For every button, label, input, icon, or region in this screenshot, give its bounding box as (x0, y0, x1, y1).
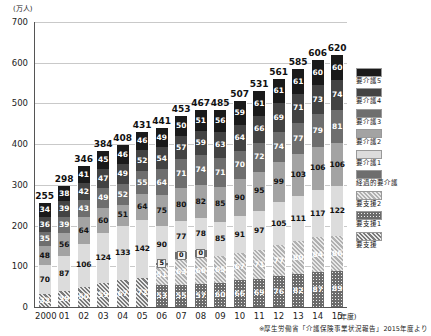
bar-segment: 39 (57, 217, 71, 233)
bar-total-label: 255 (35, 191, 54, 201)
bar-segment: 71 (252, 250, 266, 279)
bar-segment: 63 (213, 132, 227, 158)
bar-segment: 56 (57, 233, 71, 256)
legend-item[interactable]: 要支援1 (356, 211, 428, 228)
segment-value-label: 71 (176, 170, 186, 178)
legend-label: 要介護2 (356, 139, 428, 146)
y-axis-unit-label: (万人) (13, 3, 32, 13)
bar-segment: 43 (77, 200, 91, 218)
bar-segment: 76 (272, 276, 286, 307)
legend-item[interactable]: 要支援2 (356, 191, 428, 208)
bar-segment: 133 (116, 226, 130, 280)
bar-column[interactable]: 69719795726661531 (252, 91, 266, 307)
legend-item[interactable]: 要支援 (356, 232, 428, 249)
bar-segment: 87 (311, 272, 325, 307)
bar-total-label: 431 (133, 120, 152, 130)
segment-value-label: 50 (176, 122, 186, 130)
bar-column[interactable]: 576607882745951467 (194, 110, 208, 307)
segment-value-label: 117 (310, 210, 326, 218)
bar-total-label: 298 (55, 174, 74, 184)
bar-segment: 32 (38, 294, 52, 307)
bar-column[interactable]: 60658585716356485 (213, 110, 227, 307)
segment-value-label: 61 (254, 100, 264, 108)
segment-value-label: 46 (118, 151, 128, 159)
bar-segment: 60 (330, 55, 344, 79)
segment-value-label: 77 (274, 257, 284, 265)
x-axis-tick-11: 11 (250, 311, 270, 321)
bar-segment: 81 (330, 110, 344, 143)
legend-item[interactable]: 要介護1 (356, 150, 428, 167)
segment-value-label: 80 (293, 254, 303, 262)
bar-segment: 78 (194, 218, 208, 250)
segment-value-label: 59 (98, 291, 108, 299)
bar-total-label: 585 (289, 57, 308, 67)
bar-column[interactable]: 8280111103777161585 (291, 69, 305, 307)
segment-value-label: 142 (134, 245, 150, 253)
bar-column[interactable]: 66679190706459507 (233, 101, 247, 307)
segment-value-label: 41 (79, 171, 89, 179)
bar-segment: 49 (155, 128, 169, 148)
legend-item[interactable]: 要介護3 (356, 109, 428, 126)
bar-column[interactable]: 5912460494745384 (96, 151, 110, 307)
bar-segment: 51 (194, 110, 208, 131)
bar-column[interactable]: 556307780715750453 (174, 116, 188, 307)
bar-segment: 56 (213, 110, 227, 133)
segment-value-label: 34 (40, 206, 50, 214)
bar-segment: 72 (252, 143, 266, 172)
segment-value-label: 72 (137, 289, 147, 297)
bar-segment: 60 (96, 208, 110, 232)
bar-segment: 50 (77, 287, 91, 307)
x-axis-tick-07: 07 (172, 311, 192, 321)
legend-item[interactable]: 要介護2 (356, 129, 428, 146)
bar-segment: 48 (38, 246, 52, 266)
segment-value-label: 70 (40, 276, 50, 284)
bar-segment: 61 (291, 69, 305, 94)
segment-value-label: 78 (196, 230, 206, 238)
segment-value-label: 60 (215, 291, 225, 299)
bar-segment: 55 (174, 285, 188, 307)
plot-area: 3270483536342553987563939382985010664434… (35, 22, 347, 307)
legend-label: 要介護5 (356, 78, 428, 85)
bar-total-label: 441 (152, 116, 171, 126)
bar-segment: 85 (213, 222, 227, 257)
bar-segment: 105 (272, 202, 286, 245)
segment-value-label: 71 (293, 104, 303, 112)
bar-segment: 84 (311, 237, 325, 271)
bar-column[interactable]: 8986122106817460620 (330, 55, 344, 307)
bar-column[interactable]: 767710599746961561 (272, 79, 286, 307)
bar-segment: 80 (174, 188, 188, 221)
bar-segment: 74 (272, 132, 286, 162)
legend-item[interactable]: 経過的要介護 (356, 170, 428, 187)
bar-segment: 71 (213, 158, 227, 187)
bar-segment: 86 (330, 236, 344, 271)
segment-value-label: 69 (254, 289, 264, 297)
bar-total-label: 606 (308, 48, 327, 58)
bar-column[interactable]: 327048353634255 (38, 203, 52, 307)
bar-column[interactable]: 8784117106797360606 (311, 60, 325, 307)
segment-value-label: 65 (215, 266, 225, 274)
segment-value-label: 49 (98, 194, 108, 202)
segment-value-label: 72 (254, 153, 264, 161)
legend-item[interactable]: 要介護5 (356, 68, 428, 85)
bar-column[interactable]: 398756393938298 (57, 186, 71, 307)
segment-value-label: 57 (176, 144, 186, 152)
x-axis-tick-02: 02 (74, 311, 94, 321)
segment-value-label: 59 (235, 109, 245, 117)
segment-value-label: 67 (118, 290, 128, 298)
bar-segment: 47 (96, 169, 110, 188)
legend-item[interactable]: 要介護4 (356, 88, 428, 105)
bar-segment: 69 (252, 279, 266, 307)
bar-segment: 99 (272, 162, 286, 202)
bar-column[interactable]: 5010664434241346 (77, 166, 91, 307)
segment-value-label: 111 (290, 215, 306, 223)
bar-column[interactable]: 7214264555246431 (135, 132, 149, 307)
segment-value-label: 79 (313, 127, 323, 135)
bar-segment: 53 (155, 285, 169, 307)
bar-segment: 59 (233, 101, 247, 125)
bar-segment: 60 (311, 60, 325, 84)
bar-column[interactable]: 6713351524946408 (116, 145, 130, 307)
bar-column[interactable]: 535159075645449441 (155, 128, 169, 308)
bar-segment: 59 (194, 131, 208, 155)
bar-segment: 63 (174, 259, 188, 285)
bar-segment: 61 (252, 91, 266, 116)
